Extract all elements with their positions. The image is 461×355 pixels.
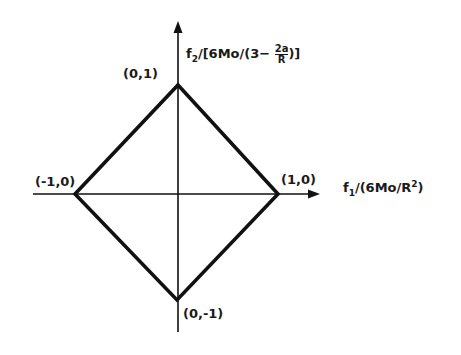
vertex-label-left: (-1,0): [35, 174, 75, 189]
vertex-label-top: (0,1): [123, 66, 158, 81]
f2-fraction-denominator: R: [275, 55, 289, 65]
vertex-label-right: (1,0): [281, 172, 316, 187]
vertical-axis-arrowhead-icon: [174, 21, 183, 33]
horizontal-axis-label: f1/(6Mo/R2): [343, 179, 424, 198]
f1-close: ): [418, 180, 424, 195]
horizontal-axis-arrowhead-icon: [308, 190, 320, 199]
f2-close: )]: [288, 46, 300, 61]
rhombus-boundary: [75, 85, 278, 300]
f2-fraction: 2aR: [275, 44, 289, 65]
vertical-axis-label: f2/[6Mo/(3− 2aR)]: [186, 44, 300, 65]
vertex-label-bottom: (0,-1): [183, 306, 223, 321]
f2-denominator: /[6Mo/(3−: [198, 46, 275, 61]
f1-denominator: /(6Mo/R: [355, 180, 411, 195]
